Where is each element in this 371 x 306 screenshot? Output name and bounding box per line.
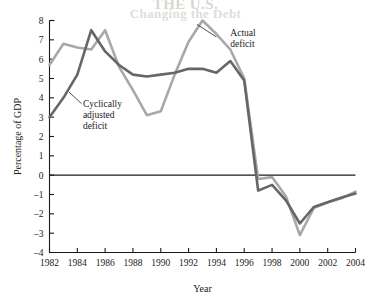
x-axis-tick-label: 1990 bbox=[151, 258, 170, 268]
annotation-text-line: deficit bbox=[230, 39, 255, 49]
y-axis-tick-label: 5 bbox=[39, 74, 44, 84]
y-axis-tick-label: –1 bbox=[33, 190, 44, 200]
x-axis-tick-label: 2004 bbox=[346, 258, 365, 268]
annotation-text-line: deficit bbox=[83, 121, 108, 131]
line-chart-plot: ActualdeficitCyclicallyadjusteddeficit –… bbox=[0, 0, 371, 306]
x-axis-tick-label: 1992 bbox=[179, 258, 198, 268]
annotation-text-line: adjusted bbox=[83, 110, 115, 120]
y-axis-tick-label: –2 bbox=[33, 209, 44, 219]
y-axis-tick-label: –3 bbox=[33, 229, 44, 239]
y-axis-tick-label: 1 bbox=[39, 151, 44, 161]
x-axis-tick-label: 1988 bbox=[123, 258, 142, 268]
x-axis-tick-label: 1994 bbox=[207, 258, 226, 268]
x-axis-tick-label: 1998 bbox=[263, 258, 282, 268]
x-axis-title: Year bbox=[193, 283, 212, 294]
y-axis-tick-label: –4 bbox=[33, 248, 44, 258]
annotation-text-line: Cyclically bbox=[83, 99, 122, 109]
chart-figure: THE U.S. Changing the Debt Actualdeficit… bbox=[0, 0, 371, 306]
y-axis-tick-label: 6 bbox=[39, 55, 44, 65]
x-axis-tick-label: 1984 bbox=[68, 258, 87, 268]
y-axis-tick-label: 3 bbox=[39, 113, 44, 123]
x-axis-tick-label: 1982 bbox=[40, 258, 59, 268]
y-axis-tick-label: 0 bbox=[39, 171, 44, 181]
x-axis-tick-label: 1986 bbox=[96, 258, 115, 268]
x-axis-tick-label: 2000 bbox=[290, 258, 309, 268]
y-axis-tick-label: 4 bbox=[39, 93, 44, 103]
x-axis-tick-label: 2002 bbox=[318, 258, 337, 268]
y-axis-tick-label: 2 bbox=[39, 132, 44, 142]
annotation-text-line: Actual bbox=[230, 28, 256, 38]
annotation-leader-line bbox=[69, 92, 82, 104]
actual-deficit-label: Actualdeficit bbox=[230, 28, 256, 49]
y-axis-tick-label: 8 bbox=[39, 16, 44, 26]
y-axis-tick-label: 7 bbox=[39, 35, 44, 45]
x-axis-tick-label: 1996 bbox=[235, 258, 254, 268]
y-axis-title: Percentage of GDP bbox=[12, 97, 23, 175]
cyclically-adjusted-deficit-label: Cyclicallyadjusteddeficit bbox=[83, 99, 122, 131]
